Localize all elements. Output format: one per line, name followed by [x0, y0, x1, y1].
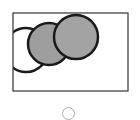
radio-button[interactable] — [62, 107, 75, 120]
gray-circle-right — [54, 15, 98, 59]
figure-canvas — [0, 0, 140, 120]
venn-figure — [0, 0, 140, 120]
